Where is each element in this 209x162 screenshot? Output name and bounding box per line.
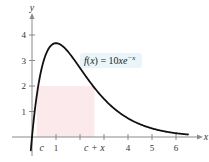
y-axis-label: y [29,2,35,13]
y-axis-arrow-icon [30,13,35,19]
chart: 14561234cc + xxyf(x) = 10xe−x [0,0,209,162]
y-tick-label: 1 [22,107,27,117]
x-axis-label: x [203,131,209,142]
x-axis-arrow-icon [197,135,203,140]
x-tick-label: 4 [126,143,131,153]
x-tick-label: 5 [150,143,155,153]
y-tick-label: 2 [22,81,27,91]
y-tick-label: 4 [22,30,27,40]
shaded-rectangle [37,86,95,137]
x-special-label: c [40,142,45,153]
x-tick-label: 6 [174,143,179,153]
x-tick-label: 1 [54,143,59,153]
x-special-label: c + x [84,142,105,153]
shaded-area-rectangle [37,86,95,137]
y-tick-label: 3 [22,56,27,66]
